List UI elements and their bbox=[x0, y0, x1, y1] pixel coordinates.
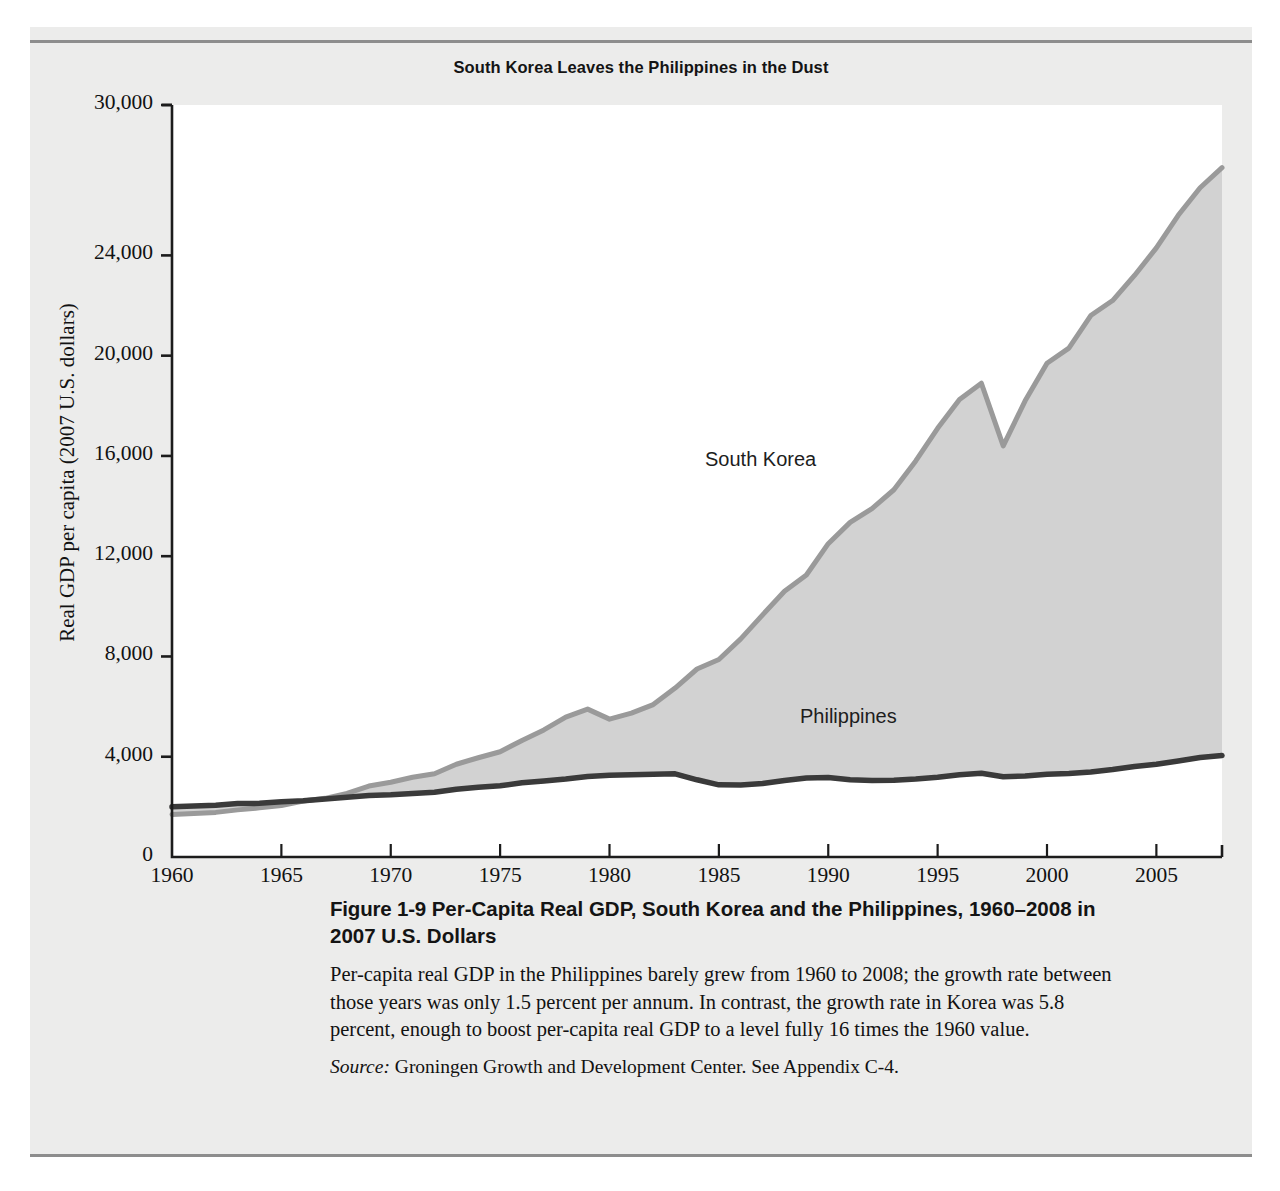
y-tick-label: 16,000 bbox=[43, 441, 153, 466]
caption-body: Per-capita real GDP in the Philippines b… bbox=[330, 961, 1130, 1044]
x-tick-label: 1995 bbox=[893, 863, 983, 888]
x-tick-label: 1965 bbox=[236, 863, 326, 888]
series-label-south-korea: South Korea bbox=[705, 448, 816, 471]
x-tick-label: 1990 bbox=[783, 863, 873, 888]
caption-number: Figure 1-9 bbox=[330, 897, 426, 920]
series-label-philippines: Philippines bbox=[800, 705, 897, 728]
y-tick-label: 4,000 bbox=[43, 742, 153, 767]
figure-caption: Figure 1-9 Per-Capita Real GDP, South Ko… bbox=[330, 895, 1130, 1080]
y-tick-label: 20,000 bbox=[43, 341, 153, 366]
chart-plot bbox=[0, 0, 1280, 880]
y-tick-label: 8,000 bbox=[43, 641, 153, 666]
source-label: Source: bbox=[330, 1056, 390, 1077]
x-tick-label: 2000 bbox=[1002, 863, 1092, 888]
caption-title: Per-Capita Real GDP, South Korea and the… bbox=[330, 897, 1095, 947]
source-text: Groningen Growth and Development Center.… bbox=[390, 1056, 899, 1077]
rule-bottom bbox=[30, 1154, 1252, 1157]
area-fill-between-series bbox=[172, 168, 1222, 815]
x-tick-label: 2005 bbox=[1111, 863, 1201, 888]
y-tick-label: 12,000 bbox=[43, 541, 153, 566]
y-tick-label: 24,000 bbox=[43, 240, 153, 265]
x-tick-label: 1975 bbox=[455, 863, 545, 888]
x-tick-label: 1960 bbox=[127, 863, 217, 888]
caption-heading: Figure 1-9 Per-Capita Real GDP, South Ko… bbox=[330, 895, 1130, 949]
x-tick-label: 1980 bbox=[565, 863, 655, 888]
x-tick-label: 1985 bbox=[674, 863, 764, 888]
caption-source: Source: Groningen Growth and Development… bbox=[330, 1054, 1130, 1080]
x-tick-label: 1970 bbox=[346, 863, 436, 888]
chart-area: Real GDP per capita (2007 U.S. dollars) … bbox=[0, 0, 1280, 880]
y-tick-label: 30,000 bbox=[43, 90, 153, 115]
